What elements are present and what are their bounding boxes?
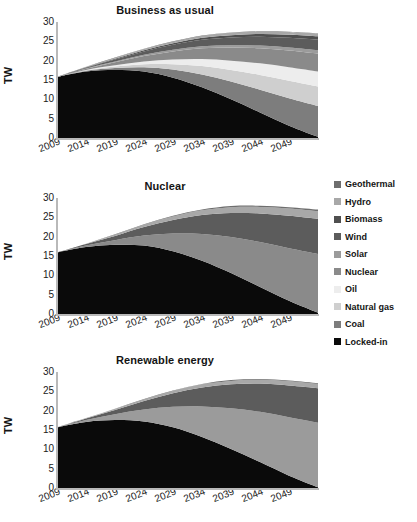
y-axis-tick-label: 5: [28, 114, 54, 124]
chart-legend: GeothermalHydroBiomassWindSolarNuclearOi…: [334, 176, 417, 351]
legend-item[interactable]: Coal: [334, 316, 417, 332]
legend-swatch-icon: [334, 251, 341, 258]
y-axis-tick-label: 10: [28, 94, 54, 104]
legend-item-label: Natural gas: [345, 302, 394, 312]
y-axis-tick-label: 10: [28, 270, 54, 280]
y-axis-ticks: 051015202530: [26, 372, 54, 488]
y-axis-line: [56, 198, 58, 314]
plot-wrapper: TW 051015202530 200920142019202420292034…: [0, 198, 330, 323]
legend-item-label: Oil: [345, 284, 357, 294]
y-axis-tick-label: 5: [28, 464, 54, 474]
legend-item[interactable]: Hydro: [334, 194, 417, 210]
legend-item-label: Geothermal: [345, 179, 395, 189]
legend-item-label: Locked-in: [345, 337, 388, 347]
y-axis-ticks: 051015202530: [26, 22, 54, 138]
y-axis-ticks: 051015202530: [26, 198, 54, 314]
legend-item-label: Nuclear: [345, 267, 378, 277]
y-axis-tick-label: 30: [28, 193, 54, 203]
legend-item[interactable]: Nuclear: [334, 264, 417, 280]
x-axis-line: [56, 138, 319, 140]
legend-swatch-icon: [334, 321, 341, 328]
y-axis-label: TW: [2, 243, 14, 260]
x-axis-ticks: 200920142019202420292034203920442049: [0, 490, 330, 520]
y-axis-tick-label: 15: [28, 75, 54, 85]
y-axis-tick-label: 25: [28, 36, 54, 46]
y-axis-tick-label: 15: [28, 425, 54, 435]
plot-area: [57, 22, 318, 138]
legend-item[interactable]: Solar: [334, 246, 417, 262]
legend-item-label: Hydro: [345, 197, 371, 207]
x-axis-ticks: 200920142019202420292034203920442049: [0, 140, 330, 170]
y-axis-tick-label: 20: [28, 56, 54, 66]
legend-item[interactable]: Wind: [334, 229, 417, 245]
chart-panel-renewable-energy: Renewable energy TW 051015202530 2009201…: [0, 348, 330, 522]
legend-swatch-icon: [334, 233, 341, 240]
y-axis-tick-label: 10: [28, 444, 54, 454]
y-axis-label: TW: [2, 417, 14, 434]
plot-area: [57, 372, 318, 488]
x-axis-line: [56, 314, 319, 316]
legend-swatch-icon: [334, 268, 341, 275]
legend-swatch-icon: [334, 286, 341, 293]
plot-wrapper: TW 051015202530 200920142019202420292034…: [0, 22, 330, 147]
y-axis-tick-label: 15: [28, 251, 54, 261]
y-axis-tick-label: 20: [28, 406, 54, 416]
legend-item-label: Coal: [345, 319, 365, 329]
energy-scenarios-figure: Business as usual TW 051015202530 200920…: [0, 0, 417, 522]
stacked-area-svg: [57, 372, 318, 488]
legend-swatch-icon: [334, 338, 341, 345]
legend-item[interactable]: Natural gas: [334, 299, 417, 315]
legend-item[interactable]: Biomass: [334, 211, 417, 227]
chart-panel-nuclear: Nuclear TW 051015202530 2009201420192024…: [0, 176, 330, 348]
chart-panel-business-as-usual: Business as usual TW 051015202530 200920…: [0, 0, 330, 176]
legend-swatch-icon: [334, 303, 341, 310]
legend-item-label: Wind: [345, 232, 367, 242]
stacked-area-svg: [57, 198, 318, 314]
y-axis-tick-label: 20: [28, 232, 54, 242]
legend-swatch-icon: [334, 216, 341, 223]
y-axis-tick-label: 30: [28, 367, 54, 377]
y-axis-tick-label: 30: [28, 17, 54, 27]
y-axis-tick-label: 5: [28, 290, 54, 300]
y-axis-line: [56, 22, 58, 138]
legend-swatch-icon: [334, 181, 341, 188]
x-axis-ticks: 200920142019202420292034203920442049: [0, 316, 330, 346]
legend-item[interactable]: Locked-in: [334, 334, 417, 350]
legend-item[interactable]: Oil: [334, 281, 417, 297]
legend-item-label: Solar: [345, 249, 368, 259]
y-axis-label: TW: [2, 67, 14, 84]
y-axis-tick-label: 25: [28, 386, 54, 396]
y-axis-line: [56, 372, 58, 488]
y-axis-tick-label: 25: [28, 212, 54, 222]
legend-swatch-icon: [334, 198, 341, 205]
stacked-area-svg: [57, 22, 318, 138]
plot-area: [57, 198, 318, 314]
x-axis-line: [56, 488, 319, 490]
plot-wrapper: TW 051015202530 200920142019202420292034…: [0, 372, 330, 497]
legend-item-label: Biomass: [345, 214, 383, 224]
legend-item[interactable]: Geothermal: [334, 176, 417, 192]
